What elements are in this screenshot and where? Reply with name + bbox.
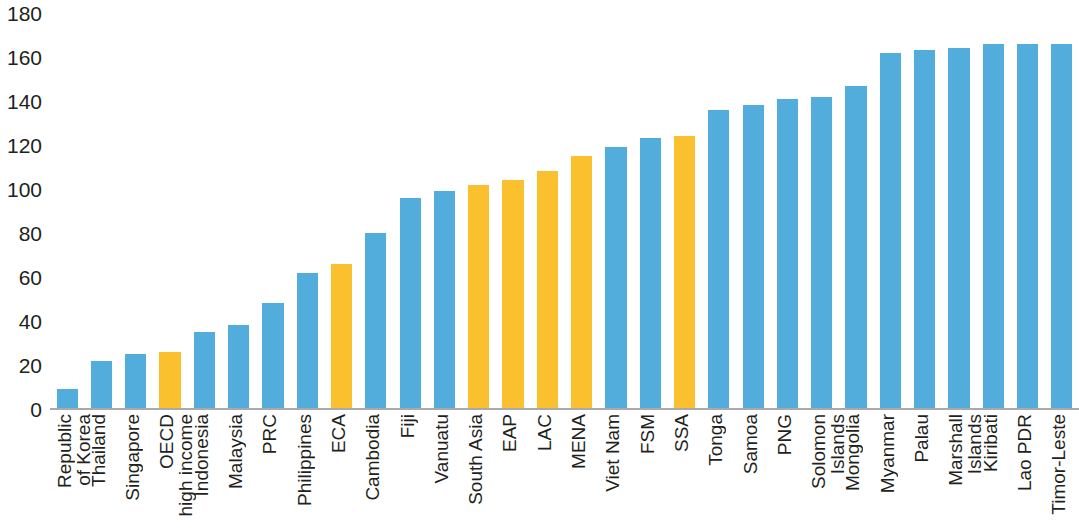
bar [880,53,901,409]
bar [468,185,489,409]
x-axis-tick-label: SSA [672,414,706,530]
bar [331,264,352,409]
x-axis-tick-label-line: EAP [500,414,519,452]
x-axis-tick-label-line: FSM [638,414,657,454]
x-axis-tick-label: MENA [569,414,603,530]
bar [502,180,523,409]
x-axis-tick-label-line: Philippines [295,414,314,506]
x-axis-tick-label-line: Fiji [398,414,417,438]
x-axis-tick-label: Samoa [741,414,775,530]
x-axis-tick-label: LAC [535,414,569,530]
bar [743,105,764,409]
x-axis-tick-label-line: Myanmar [878,414,897,493]
x-axis-tick-label: Indonesia [192,414,226,530]
y-tick-label: 60 [19,267,42,288]
bar [605,147,626,409]
y-tick-label: 100 [7,179,42,200]
x-axis-tick-label: Cambodia [363,414,397,530]
x-axis-tick-label: Thailand [89,414,123,530]
bar [91,361,112,409]
x-axis-tick-label: Singapore [123,414,157,530]
x-axis-tick-label-line: Cambodia [363,414,382,501]
x-axis-tick-label: Philippines [295,414,329,530]
bar [365,233,386,409]
x-axis-line [50,408,1079,410]
x-axis-tick-label-line: Malaysia [226,414,245,489]
x-axis-tick-label-line: Tonga [706,414,725,466]
x-axis-tick-label-line: PRC [260,414,279,454]
x-axis-tick-label: Lao PDR [1015,414,1049,530]
x-axis-tick-label: Viet Nam [603,414,637,530]
x-axis-tick-label: ECA [329,414,363,530]
bar [640,138,661,409]
bar [674,136,695,409]
x-axis-tick-label-line: PNG [775,414,794,455]
x-axis-tick-label-line: Solomon [809,414,828,489]
bar [194,332,215,409]
x-axis-tick-label-line: ECA [329,414,348,453]
bar [262,303,283,409]
y-tick-label: 0 [30,399,42,420]
bar [811,97,832,409]
bar [297,273,318,409]
x-axis-tick-label: MarshallIslands [946,414,980,530]
bar-chart: 180160140120100806040200 Republicof Kore… [0,0,1079,530]
x-axis-tick-label: Timor-Leste [1049,414,1079,530]
bar [777,99,798,409]
plot-area [50,13,1079,409]
bar [983,44,1004,409]
bar [159,352,180,409]
bar [125,354,146,409]
bar [708,110,729,409]
bar [1017,44,1038,409]
y-axis: 180160140120100806040200 [0,0,46,420]
x-axis-tick-label: Republicof Korea [55,414,89,530]
x-axis-tick-label-line: Mongolia [843,414,862,491]
x-axis-tick-label: Mongolia [843,414,877,530]
x-axis-tick-label-line: Lao PDR [1015,414,1034,491]
x-axis-tick-label: SolomonIslands [809,414,843,530]
x-axis-tick-label: Palau [912,414,946,530]
x-axis-tick-label: Fiji [398,414,432,530]
x-axis-tick-label-line: Timor-Leste [1049,414,1068,515]
x-axis-tick-label-line: Indonesia [192,414,211,496]
bar [1051,44,1072,409]
y-tick-label: 120 [7,135,42,156]
x-axis-tick-label-line: Kiribati [981,414,1000,472]
x-axis-tick-label: Myanmar [878,414,912,530]
x-axis-tick-label-line: OECD [157,414,176,469]
y-tick-label: 140 [7,91,42,112]
bar [914,50,935,409]
bar [571,156,592,409]
bar [948,48,969,409]
x-axis-tick-label: OECDhigh income [157,414,191,530]
y-tick-label: 80 [19,223,42,244]
y-tick-label: 160 [7,47,42,68]
x-axis-tick-label-line: Republic [55,414,74,488]
x-axis-tick-label-line: Singapore [123,414,142,501]
x-axis-tick-label: South Asia [466,414,500,530]
x-axis-tick-label-line: Vanuatu [432,414,451,483]
x-axis-tick-label-line: LAC [535,414,554,451]
x-axis-tick-label-line: Marshall [946,414,965,486]
y-tick-label: 20 [19,355,42,376]
x-axis-tick-label-line: Viet Nam [603,414,622,492]
x-axis-tick-label-line: SSA [672,414,691,452]
x-axis-tick-label: Kiribati [981,414,1015,530]
x-axis-tick-label: PNG [775,414,809,530]
y-tick-label: 180 [7,3,42,24]
x-axis-tick-label: Vanuatu [432,414,466,530]
bar [845,86,866,409]
x-axis-tick-label: Malaysia [226,414,260,530]
bar [537,171,558,409]
x-axis-tick-label-line: Thailand [89,414,108,487]
bar [228,325,249,409]
x-axis-labels: Republicof KoreaThailandSingaporeOECDhig… [50,414,1079,530]
x-axis-tick-label-line: Samoa [741,414,760,474]
x-axis-tick-label: EAP [500,414,534,530]
x-axis-tick-label: FSM [638,414,672,530]
bar [400,198,421,409]
x-axis-tick-label-line: Palau [912,414,931,463]
bar [434,191,455,409]
y-tick-label: 40 [19,311,42,332]
